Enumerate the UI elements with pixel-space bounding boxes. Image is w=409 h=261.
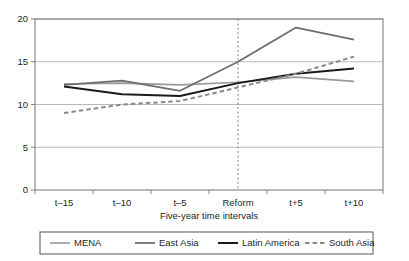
x-tick-label: Reform xyxy=(222,197,253,208)
x-tick-label: t–10 xyxy=(113,197,132,208)
x-axis-ticks xyxy=(35,190,383,194)
y-axis: 05101520 xyxy=(17,13,35,195)
legend-label-south-asia: South Asia xyxy=(329,237,375,248)
chart-figure: 05101520 t–15t–10t–5Reformt+5t+10 Five-y… xyxy=(0,0,409,261)
y-tick-label: 10 xyxy=(17,99,28,110)
x-tick-label: t–15 xyxy=(55,197,74,208)
chart-legend: MENAEast AsiaLatin AmericaSouth Asia xyxy=(40,232,375,254)
line-chart: 05101520 t–15t–10t–5Reformt+5t+10 Five-y… xyxy=(0,0,409,261)
x-tick-label: t–5 xyxy=(173,197,186,208)
legend-label-latin-america: Latin America xyxy=(242,237,300,248)
y-tick-label: 0 xyxy=(23,184,28,195)
x-tick-label: t+5 xyxy=(289,197,302,208)
x-axis-labels: t–15t–10t–5Reformt+5t+10 xyxy=(55,197,364,208)
y-tick-label: 5 xyxy=(23,142,28,153)
legend-label-east-asia: East Asia xyxy=(159,237,199,248)
x-tick-label: t+10 xyxy=(345,197,364,208)
legend-label-mena: MENA xyxy=(74,237,102,248)
x-axis-title: Five-year time intervals xyxy=(160,210,258,221)
y-tick-label: 15 xyxy=(17,56,28,67)
y-tick-label: 20 xyxy=(17,13,28,24)
